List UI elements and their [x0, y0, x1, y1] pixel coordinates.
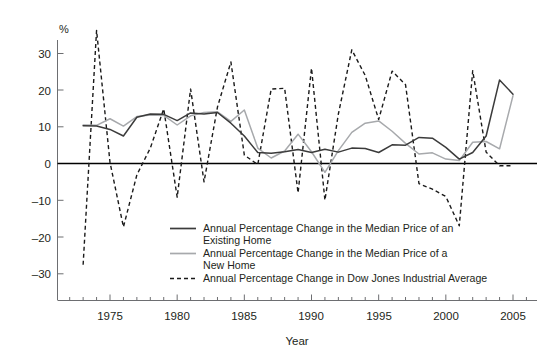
legend-label-dow-jones: Annual Percentage Change in Dow Jones In…	[203, 272, 487, 284]
y-label-neg20: –20	[32, 232, 51, 244]
x-axis-title: Year	[285, 335, 308, 347]
legend-label-existing-home-line2: Existing Home	[203, 234, 271, 246]
x-axis-tick-labels: 1975 1980 1985 1990 1995 2000 2005	[97, 310, 526, 322]
y-label-20: 20	[38, 85, 51, 97]
y-label-neg30: –30	[32, 268, 51, 280]
chart-legend: Annual Percentage Change in the Median P…	[170, 222, 487, 284]
y-label-10: 10	[38, 121, 51, 133]
y-axis-unit-label: %	[59, 23, 69, 35]
legend-label-existing-home-line1: Annual Percentage Change in the Median P…	[203, 222, 453, 234]
chart-container: % 30 20 10 0 –10 –20 –30 1975	[0, 0, 554, 357]
series-line-existing-home	[83, 80, 513, 159]
x-label-1980: 1980	[164, 310, 190, 322]
legend-label-new-home-line1: Annual Percentage Change in the Median P…	[203, 247, 448, 259]
y-label-0: 0	[45, 158, 51, 170]
legend-label-new-home-line2: New Home	[203, 259, 256, 271]
y-axis-tick-labels: 30 20 10 0 –10 –20 –30	[32, 48, 51, 280]
series-line-new-home	[83, 96, 513, 173]
x-label-1995: 1995	[366, 310, 392, 322]
x-label-2000: 2000	[433, 310, 459, 322]
x-label-2005: 2005	[500, 310, 526, 322]
x-label-1985: 1985	[231, 310, 257, 322]
y-label-neg10: –10	[32, 195, 51, 207]
x-axis-ticks	[70, 295, 527, 301]
y-label-30: 30	[38, 48, 51, 60]
x-label-1990: 1990	[298, 310, 324, 322]
line-chart: % 30 20 10 0 –10 –20 –30 1975	[0, 0, 554, 357]
x-label-1975: 1975	[97, 310, 123, 322]
